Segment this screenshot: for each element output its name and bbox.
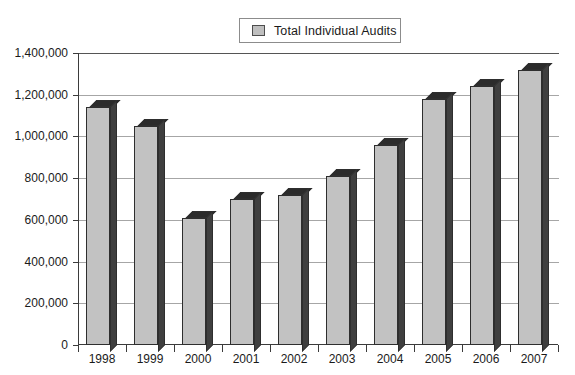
bar-chart: Total Individual Audits 1,400,0001,200,0…: [0, 0, 575, 375]
x-axis-tick: [78, 345, 79, 352]
x-axis-tick-label: 2004: [366, 352, 414, 366]
bar-body: [470, 86, 501, 345]
bar-body: [230, 199, 261, 345]
bar-front-face: [278, 195, 302, 345]
x-axis-tick: [510, 345, 511, 352]
bar-front-face: [422, 99, 446, 345]
x-axis-tick-label: 2002: [270, 352, 318, 366]
bar-front-face: [374, 145, 398, 345]
bar-1999: [134, 53, 165, 345]
x-axis-tick: [270, 345, 271, 352]
y-axis-tick-label: 0: [61, 339, 68, 351]
bar-1998: [86, 53, 117, 345]
x-axis-tick: [414, 345, 415, 352]
bar-2002: [278, 53, 309, 345]
x-axis-tick: [126, 345, 127, 352]
x-axis-ticks: [78, 345, 558, 352]
bar-side-face: [494, 79, 501, 352]
y-axis-tick-label: 1,400,000: [15, 47, 68, 59]
bar-2005: [422, 53, 453, 345]
x-axis-tick-label: 2000: [174, 352, 222, 366]
chart-legend: Total Individual Audits: [239, 18, 401, 43]
x-axis-tick-label: 1999: [126, 352, 174, 366]
y-axis-tick-labels: 1,400,0001,200,0001,000,000800,000600,00…: [0, 53, 72, 345]
bar-series-total-individual-audits: [79, 53, 559, 345]
bar-body: [86, 107, 117, 345]
bar-body: [326, 176, 357, 345]
bar-side-face: [398, 138, 405, 352]
x-axis-tick: [462, 345, 463, 352]
y-axis-tick-label: 200,000: [25, 297, 68, 309]
bar-2000: [182, 53, 213, 345]
legend-label-total-individual-audits: Total Individual Audits: [274, 24, 397, 38]
y-axis-tick-label: 400,000: [25, 256, 68, 268]
x-axis-tick: [558, 345, 559, 352]
bar-front-face: [470, 86, 494, 345]
bar-body: [182, 218, 213, 345]
bar-body: [422, 99, 453, 345]
y-axis-tick-label: 1,000,000: [15, 130, 68, 142]
x-axis-tick-label: 2003: [318, 352, 366, 366]
bar-body: [134, 126, 165, 345]
bar-front-face: [230, 199, 254, 345]
y-axis-tick-label: 1,200,000: [15, 89, 68, 101]
bar-2007: [518, 53, 549, 345]
legend-swatch-total-individual-audits: [252, 25, 265, 36]
x-axis-tick-labels: 1998199920002001200220032004200520062007: [78, 352, 558, 372]
x-axis-tick-label: 2006: [462, 352, 510, 366]
bar-front-face: [518, 70, 542, 345]
bar-front-face: [86, 107, 110, 345]
bar-front-face: [182, 218, 206, 345]
x-axis-tick: [318, 345, 319, 352]
y-axis-tick-label: 800,000: [25, 172, 68, 184]
x-axis-tick-label: 2007: [510, 352, 558, 366]
bar-side-face: [254, 192, 261, 352]
bar-body: [374, 145, 405, 345]
x-axis-tick-label: 2005: [414, 352, 462, 366]
bar-side-face: [542, 63, 549, 352]
x-axis-tick: [222, 345, 223, 352]
bar-front-face: [326, 176, 350, 345]
bar-side-face: [158, 119, 165, 352]
bar-front-face: [134, 126, 158, 345]
bar-side-face: [110, 100, 117, 352]
bar-body: [518, 70, 549, 345]
bar-body: [278, 195, 309, 345]
bar-2006: [470, 53, 501, 345]
bar-side-face: [302, 188, 309, 352]
bar-2004: [374, 53, 405, 345]
bar-side-face: [446, 92, 453, 352]
x-axis-tick-label: 2001: [222, 352, 270, 366]
x-axis-tick: [174, 345, 175, 352]
bar-side-face: [206, 211, 213, 352]
bar-side-face: [350, 169, 357, 352]
plot-area: [78, 53, 558, 345]
bar-2001: [230, 53, 261, 345]
x-axis-tick: [366, 345, 367, 352]
bar-2003: [326, 53, 357, 345]
x-axis-tick-label: 1998: [78, 352, 126, 366]
y-axis-tick-label: 600,000: [25, 214, 68, 226]
